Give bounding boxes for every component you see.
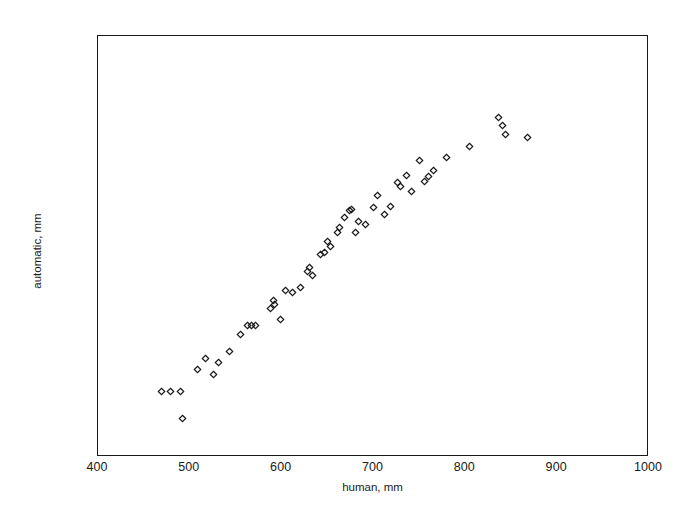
scatter-plot-figure: 4005006007008009001000 40050060070080090…	[0, 0, 688, 521]
data-point-marker	[397, 183, 404, 190]
data-point-marker	[348, 206, 355, 213]
data-point-marker	[362, 221, 369, 228]
data-point-marker	[336, 224, 343, 231]
data-point-marker	[495, 114, 502, 121]
data-point-marker	[416, 157, 423, 164]
data-point-marker	[352, 229, 359, 236]
x-tick-label: 500	[154, 460, 224, 474]
data-point-marker	[502, 131, 509, 138]
x-tick-label: 400	[62, 460, 132, 474]
data-point-marker	[430, 167, 437, 174]
x-tick-label: 700	[338, 460, 408, 474]
data-point-marker	[277, 316, 284, 323]
data-point-marker	[306, 264, 313, 271]
data-point-marker	[167, 388, 174, 395]
data-point-marker	[237, 331, 244, 338]
data-point-marker	[252, 322, 259, 329]
data-point-marker	[289, 289, 296, 296]
data-point-marker	[341, 214, 348, 221]
data-point-marker	[381, 211, 388, 218]
x-tick-label: 1000	[613, 460, 683, 474]
data-point-marker	[425, 173, 432, 180]
data-point-marker	[297, 284, 304, 291]
data-point-marker	[327, 243, 334, 250]
data-point-marker	[370, 204, 377, 211]
data-point-marker	[215, 359, 222, 366]
data-point-marker	[210, 371, 217, 378]
data-point-marker	[226, 348, 233, 355]
plot-data-area	[98, 36, 647, 455]
x-tick-label: 800	[429, 460, 499, 474]
data-point-marker	[177, 388, 184, 395]
data-point-marker	[403, 172, 410, 179]
plot-frame	[97, 35, 648, 456]
data-point-marker	[309, 272, 316, 279]
data-point-marker	[194, 366, 201, 373]
data-point-marker	[524, 134, 531, 141]
x-tick-label: 900	[521, 460, 591, 474]
data-point-marker	[282, 287, 289, 294]
data-point-marker	[443, 154, 450, 161]
data-point-marker	[499, 122, 506, 129]
data-point-marker	[179, 415, 186, 422]
x-axis-title: human, mm	[97, 481, 648, 493]
data-point-marker	[202, 355, 209, 362]
data-point-marker	[158, 388, 165, 395]
data-point-marker	[271, 301, 278, 308]
y-axis-title: automatic, mm	[31, 186, 43, 316]
data-point-marker	[374, 192, 381, 199]
data-point-marker	[387, 203, 394, 210]
x-tick-label: 600	[246, 460, 316, 474]
data-point-marker	[466, 143, 473, 150]
data-point-marker	[408, 188, 415, 195]
